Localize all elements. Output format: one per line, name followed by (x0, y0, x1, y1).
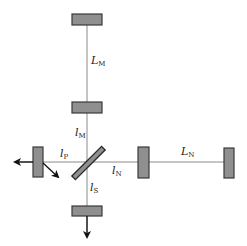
mirror-n-input (138, 147, 149, 178)
label-lS: lS (90, 181, 99, 195)
mirror-m-input (72, 102, 102, 113)
arrow-down-right-icon (43, 163, 58, 177)
interferometer-diagram: LM lM lP lN LN lS (0, 0, 247, 246)
mirror-m-end (72, 14, 102, 25)
label-LN: LN (180, 145, 194, 159)
beam-splitter (72, 146, 105, 179)
mirror-signal-recycling (72, 206, 102, 216)
label-LM: LM (90, 54, 105, 68)
label-lP: lP (60, 147, 69, 161)
label-lM: lM (75, 126, 86, 140)
mirror-power-recycling (33, 147, 43, 177)
mirror-n-end (224, 148, 234, 178)
label-lN: lN (112, 164, 122, 178)
